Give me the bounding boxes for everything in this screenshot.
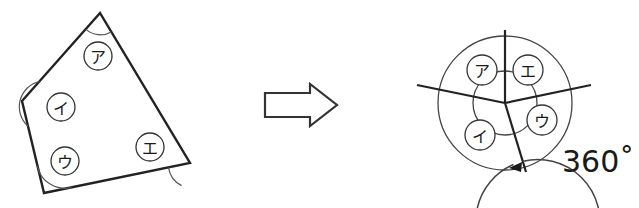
degree-label-360: 360˚ [562,144,634,179]
quadrilateral-label-e: エ [136,133,164,161]
ray-down [505,103,526,172]
label-text-e: エ [520,62,536,81]
circle-label-i: イ [465,120,495,150]
circle-label-e: エ [513,55,543,85]
implies-arrow-group [265,84,337,126]
left-quadrilateral-group: ア イ ウ エ [19,13,190,193]
label-text-a: ア [90,48,106,67]
quadrilateral-label-a: ア [84,42,112,70]
label-text-e: エ [142,139,158,158]
label-text-a: ア [474,62,490,81]
label-text-i: イ [472,127,488,146]
label-text-u: ウ [57,153,73,172]
ray-upper-left [417,85,505,103]
implies-arrow-icon [265,84,337,126]
label-text-u: ウ [534,112,550,131]
label-text-i: イ [53,99,69,118]
angle-arc-right [169,167,182,185]
angle-sum-circle-group: ア エ ウ イ 360˚ [417,30,634,208]
quadrilateral-label-i: イ [47,93,75,121]
ray-right [505,85,591,103]
circle-label-a: ア [467,55,497,85]
figure-canvas: ア イ ウ エ [0,0,639,208]
sweep-arrowhead-icon [509,162,522,172]
circle-label-u: ウ [527,105,557,135]
figure-svg: ア イ ウ エ [0,0,639,208]
quadrilateral-label-u: ウ [51,147,79,175]
